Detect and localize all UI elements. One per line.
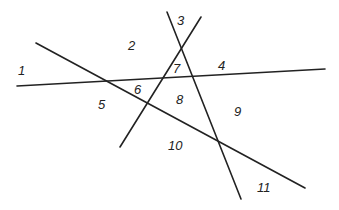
lines-group <box>17 12 325 199</box>
diagram-canvas: 1234567891011 <box>0 0 339 210</box>
region-label-5: 5 <box>98 97 106 112</box>
region-label-7: 7 <box>173 61 181 76</box>
region-label-11: 11 <box>257 180 271 195</box>
region-label-8: 8 <box>176 92 184 107</box>
labels-group: 1234567891011 <box>18 13 271 195</box>
region-label-2: 2 <box>127 38 136 53</box>
region-label-4: 4 <box>218 58 225 73</box>
region-label-10: 10 <box>168 138 183 153</box>
region-label-1: 1 <box>18 63 25 78</box>
region-label-6: 6 <box>134 82 142 97</box>
line-a <box>17 69 325 86</box>
region-label-9: 9 <box>234 104 241 119</box>
region-label-3: 3 <box>177 13 185 28</box>
line-d <box>120 17 201 147</box>
